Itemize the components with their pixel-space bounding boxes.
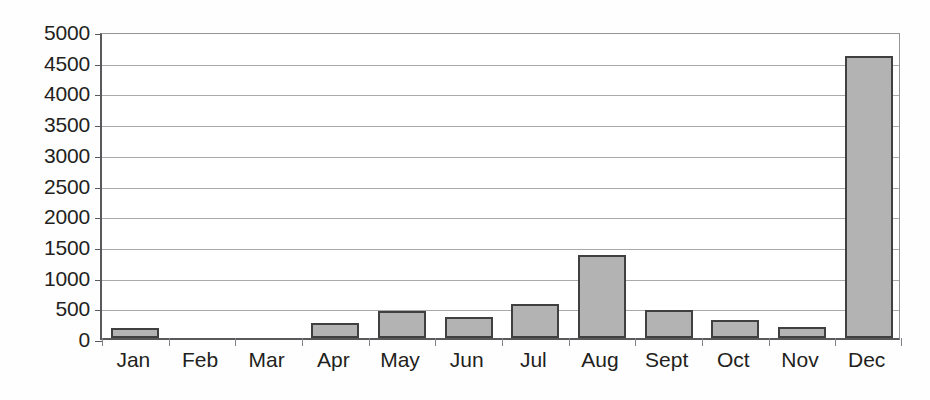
x-axis-tick-label: Jul (500, 348, 567, 372)
y-axis-tick-mark (95, 126, 102, 127)
x-axis-tick-mark (901, 338, 902, 346)
y-axis-tick-mark (95, 157, 102, 158)
bar (378, 311, 426, 338)
y-axis-tick-label: 500 (0, 298, 90, 319)
x-axis-tick-label: Mar (233, 348, 300, 372)
plot-area (100, 33, 900, 340)
y-axis-tick-label: 3000 (0, 145, 90, 166)
y-axis-tick-mark (95, 34, 102, 35)
bar (511, 304, 559, 338)
y-axis-tick-label: 4500 (0, 53, 90, 74)
y-axis-tick-label: 3500 (0, 114, 90, 135)
x-axis-tick-mark (169, 338, 170, 346)
x-axis-category-labels: JanFebMarAprMayJunJulAugSeptOctNovDec (100, 348, 900, 388)
y-axis-tick-mark (95, 95, 102, 96)
x-axis-tick-label: Sept (633, 348, 700, 372)
y-axis-tick-mark (95, 280, 102, 281)
bar (445, 317, 493, 338)
y-axis-tick-mark (95, 249, 102, 250)
y-axis-tick-label: 1500 (0, 237, 90, 258)
y-axis-tick-label: 2000 (0, 206, 90, 227)
x-axis-tick-label: Dec (833, 348, 900, 372)
x-axis-tick-label: Jan (100, 348, 167, 372)
x-axis-tick-label: Aug (567, 348, 634, 372)
y-axis-tick-label: 5000 (0, 22, 90, 43)
bar (711, 320, 759, 338)
bar (111, 328, 159, 338)
x-axis-tick-label: Oct (700, 348, 767, 372)
x-axis-tick-label: Jun (433, 348, 500, 372)
x-axis-tick-mark (569, 338, 570, 346)
bar (311, 323, 359, 338)
x-axis-tick-label: May (367, 348, 434, 372)
bar (645, 310, 693, 338)
x-axis-tick-label: Feb (167, 348, 234, 372)
x-axis-tick-mark (635, 338, 636, 346)
x-axis-tick-mark (769, 338, 770, 346)
y-axis-tick-mark (95, 341, 102, 342)
y-axis-tick-label: 2500 (0, 176, 90, 197)
bar (845, 56, 893, 338)
x-axis-tick-mark (102, 338, 103, 346)
x-axis-tick-mark (502, 338, 503, 346)
bar (578, 255, 626, 338)
x-axis-tick-label: Nov (767, 348, 834, 372)
x-axis-tick-label: Apr (300, 348, 367, 372)
bar-series (102, 34, 899, 338)
y-axis-tick-mark (95, 188, 102, 189)
y-axis-tick-label: 0 (0, 329, 90, 350)
bar-chart: 5000450040003500300025002000150010005000… (0, 0, 930, 400)
x-axis-tick-mark (369, 338, 370, 346)
y-axis-tick-mark (95, 65, 102, 66)
y-axis-tick-labels: 5000450040003500300025002000150010005000 (0, 0, 90, 400)
y-axis-tick-mark (95, 310, 102, 311)
x-axis-tick-mark (435, 338, 436, 346)
bar (778, 327, 826, 338)
y-axis-tick-label: 1000 (0, 268, 90, 289)
y-axis-tick-mark (95, 218, 102, 219)
x-axis-tick-mark (235, 338, 236, 346)
y-axis-tick-label: 4000 (0, 83, 90, 104)
x-axis-tick-mark (702, 338, 703, 346)
x-axis-tick-mark (302, 338, 303, 346)
x-axis-tick-mark (835, 338, 836, 346)
